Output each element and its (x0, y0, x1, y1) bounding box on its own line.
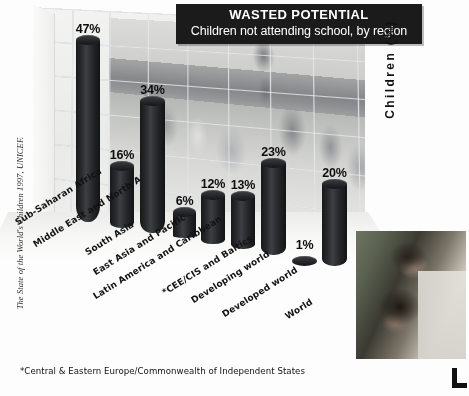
bar-value-label: 13% (231, 178, 255, 192)
corner-registration-mark (452, 368, 467, 388)
infographic-root: WASTED POTENTIAL Children not attending … (0, 0, 469, 396)
category-label-8: World (283, 297, 314, 322)
bar-value-label: 23% (261, 145, 285, 159)
bottom-strip (0, 358, 469, 396)
bar-top-ellipse (292, 256, 317, 266)
bar-value-label: 20% (322, 166, 346, 180)
bar-value-label: 6% (176, 194, 194, 208)
bar-0: 47% (76, 40, 100, 222)
bar-top-ellipse (201, 190, 225, 200)
footnote: *Central & Eastern Europe/Commonwealth o… (20, 366, 305, 376)
bar-value-label: 12% (201, 177, 225, 191)
bar-top-ellipse (110, 161, 134, 171)
bar-value-label: 16% (110, 148, 134, 162)
bar-body (261, 163, 286, 255)
two-children-photo (356, 231, 466, 359)
bar-6: 23% (261, 163, 286, 255)
bar-value-label: 34% (140, 83, 164, 97)
bar-body (322, 184, 347, 266)
bar-value-label: 1% (296, 238, 314, 252)
bar-7: 1% (292, 256, 317, 264)
bar-top-ellipse (322, 179, 347, 189)
bar-top-ellipse (76, 35, 100, 45)
bar-2: 34% (140, 101, 165, 233)
bar-body (76, 40, 100, 222)
bar-top-ellipse (140, 96, 165, 106)
source-caption: The State of the World's Children 1997, … (15, 133, 25, 313)
bar-body (140, 101, 165, 233)
bar-value-label: 47% (76, 22, 100, 36)
bar-8: 20% (322, 184, 347, 266)
bar-top-ellipse (261, 158, 286, 168)
bar-top-ellipse (231, 191, 255, 201)
